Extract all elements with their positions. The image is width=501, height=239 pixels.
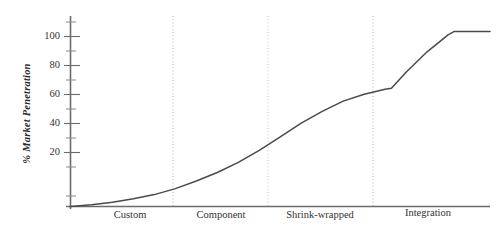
y-major-tick-group xyxy=(64,37,80,153)
x-category-label-component: Component xyxy=(177,209,265,220)
x-category-label-integration: Integration xyxy=(384,207,472,218)
y-tick-label-60: 60 xyxy=(26,88,60,99)
x-category-label-custom: Custom xyxy=(86,209,174,220)
data-series-line xyxy=(71,31,491,206)
x-category-label-shrink-wrapped: Shrink-wrapped xyxy=(270,209,370,220)
y-tick-label-100: 100 xyxy=(26,30,60,41)
y-tick-label-80: 80 xyxy=(26,59,60,70)
chart-container: % Market Penetration 100 80 60 40 20 Cus… xyxy=(0,0,501,239)
chart-plot-area xyxy=(0,0,501,239)
y-tick-label-40: 40 xyxy=(26,117,60,128)
y-tick-label-20: 20 xyxy=(26,146,60,157)
